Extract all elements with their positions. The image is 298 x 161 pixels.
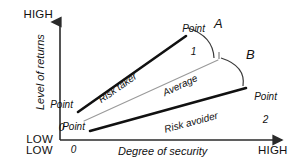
- point-one-number: 1: [191, 46, 197, 57]
- point-two: Point 2: [240, 80, 280, 136]
- gap-a-label: A: [214, 17, 223, 32]
- x-axis-title: Degree of security: [118, 145, 207, 157]
- point-zero-lower-word: Point: [62, 121, 85, 132]
- y-axis-high-label: HIGH: [23, 8, 53, 21]
- point-zero-lower-number: 0: [71, 144, 77, 155]
- diagram-canvas: HIGH LOW Level of returns Degree of secu…: [0, 0, 298, 161]
- point-one-word: Point: [182, 23, 205, 34]
- point-zero-upper-word: Point: [50, 99, 73, 110]
- point-two-number: 2: [263, 114, 269, 125]
- point-one: Point 1: [168, 12, 208, 68]
- gap-b-label: B: [246, 48, 255, 63]
- point-two-word: Point: [254, 91, 277, 102]
- x-axis-high-label: HIGH: [258, 144, 288, 157]
- point-zero-lower: Point 0: [48, 110, 88, 161]
